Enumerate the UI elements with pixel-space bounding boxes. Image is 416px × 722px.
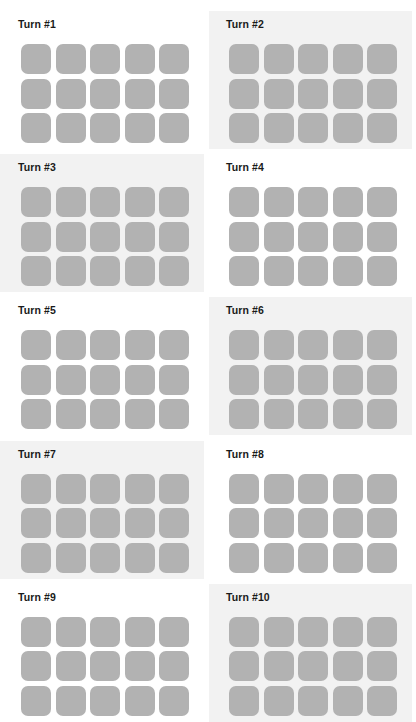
grid-cell[interactable] [56, 113, 86, 143]
grid-cell[interactable] [125, 617, 155, 647]
grid-cell[interactable] [367, 256, 397, 286]
grid-cell[interactable] [229, 508, 259, 538]
grid-cell[interactable] [56, 330, 86, 360]
grid-cell[interactable] [21, 686, 51, 716]
grid-cell[interactable] [21, 79, 51, 109]
turn-panel[interactable]: Turn #1 [0, 0, 208, 143]
grid-cell[interactable] [367, 330, 397, 360]
grid-cell[interactable] [125, 399, 155, 429]
turn-panel[interactable]: Turn #9 [0, 573, 208, 716]
grid-cell[interactable] [159, 508, 189, 538]
grid-cell[interactable] [264, 543, 294, 573]
grid-cell[interactable] [125, 44, 155, 74]
grid-cell[interactable] [264, 256, 294, 286]
grid-cell[interactable] [229, 543, 259, 573]
grid-cell[interactable] [56, 474, 86, 504]
grid-cell[interactable] [229, 617, 259, 647]
grid-cell[interactable] [367, 651, 397, 681]
grid-cell[interactable] [90, 256, 120, 286]
grid-cell[interactable] [229, 651, 259, 681]
grid-cell[interactable] [333, 187, 363, 217]
grid-cell[interactable] [56, 44, 86, 74]
grid-cell[interactable] [21, 113, 51, 143]
grid-cell[interactable] [159, 617, 189, 647]
grid-cell[interactable] [159, 651, 189, 681]
grid-cell[interactable] [90, 187, 120, 217]
grid-cell[interactable] [21, 543, 51, 573]
grid-cell[interactable] [90, 44, 120, 74]
turn-panel[interactable]: Turn #4 [208, 143, 416, 286]
grid-cell[interactable] [56, 187, 86, 217]
grid-cell[interactable] [367, 399, 397, 429]
grid-cell[interactable] [90, 508, 120, 538]
grid-cell[interactable] [298, 543, 328, 573]
grid-cell[interactable] [21, 44, 51, 74]
grid-cell[interactable] [264, 399, 294, 429]
grid-cell[interactable] [21, 365, 51, 395]
grid-cell[interactable] [90, 222, 120, 252]
grid-cell[interactable] [125, 365, 155, 395]
grid-cell[interactable] [333, 222, 363, 252]
grid-cell[interactable] [90, 330, 120, 360]
grid-cell[interactable] [367, 686, 397, 716]
grid-cell[interactable] [21, 474, 51, 504]
grid-cell[interactable] [21, 187, 51, 217]
grid-cell[interactable] [125, 543, 155, 573]
turn-panel[interactable]: Turn #10 [208, 573, 416, 716]
grid-cell[interactable] [125, 79, 155, 109]
grid-cell[interactable] [367, 222, 397, 252]
grid-cell[interactable] [90, 365, 120, 395]
grid-cell[interactable] [56, 617, 86, 647]
grid-cell[interactable] [264, 617, 294, 647]
grid-cell[interactable] [125, 508, 155, 538]
grid-cell[interactable] [159, 365, 189, 395]
grid-cell[interactable] [298, 44, 328, 74]
grid-cell[interactable] [264, 365, 294, 395]
grid-cell[interactable] [56, 222, 86, 252]
grid-cell[interactable] [159, 543, 189, 573]
grid-cell[interactable] [159, 474, 189, 504]
grid-cell[interactable] [125, 256, 155, 286]
grid-cell[interactable] [264, 44, 294, 74]
grid-cell[interactable] [90, 79, 120, 109]
grid-cell[interactable] [56, 543, 86, 573]
grid-cell[interactable] [56, 365, 86, 395]
grid-cell[interactable] [159, 330, 189, 360]
grid-cell[interactable] [298, 256, 328, 286]
grid-cell[interactable] [264, 330, 294, 360]
grid-cell[interactable] [298, 79, 328, 109]
turn-panel[interactable]: Turn #6 [208, 286, 416, 429]
grid-cell[interactable] [333, 686, 363, 716]
grid-cell[interactable] [333, 399, 363, 429]
grid-cell[interactable] [298, 187, 328, 217]
grid-cell[interactable] [229, 113, 259, 143]
grid-cell[interactable] [229, 256, 259, 286]
grid-cell[interactable] [367, 508, 397, 538]
grid-cell[interactable] [333, 365, 363, 395]
grid-cell[interactable] [333, 330, 363, 360]
grid-cell[interactable] [56, 256, 86, 286]
grid-cell[interactable] [159, 686, 189, 716]
grid-cell[interactable] [90, 651, 120, 681]
grid-cell[interactable] [333, 543, 363, 573]
grid-cell[interactable] [229, 330, 259, 360]
grid-cell[interactable] [125, 651, 155, 681]
grid-cell[interactable] [90, 474, 120, 504]
grid-cell[interactable] [159, 399, 189, 429]
grid-cell[interactable] [333, 474, 363, 504]
grid-cell[interactable] [125, 113, 155, 143]
turn-panel[interactable]: Turn #5 [0, 286, 208, 429]
grid-cell[interactable] [56, 399, 86, 429]
grid-cell[interactable] [159, 79, 189, 109]
grid-cell[interactable] [125, 222, 155, 252]
grid-cell[interactable] [264, 651, 294, 681]
grid-cell[interactable] [298, 686, 328, 716]
grid-cell[interactable] [367, 44, 397, 74]
grid-cell[interactable] [90, 113, 120, 143]
grid-cell[interactable] [159, 187, 189, 217]
grid-cell[interactable] [159, 113, 189, 143]
grid-cell[interactable] [264, 474, 294, 504]
grid-cell[interactable] [229, 79, 259, 109]
grid-cell[interactable] [298, 651, 328, 681]
turn-panel[interactable]: Turn #7 [0, 430, 208, 573]
